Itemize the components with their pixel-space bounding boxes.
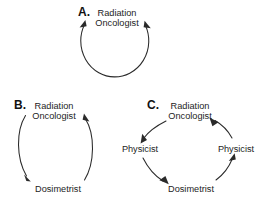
panel-c-node-radiation-oncologist-line1: Radiation [171, 101, 210, 111]
panel-c: C. Radiation Oncologist Physicist Dosime… [122, 98, 255, 194]
panel-c-arc-ro-to-physicist-left [144, 121, 167, 139]
panel-c-letter: C. [147, 98, 159, 112]
panel-c-arc-physicist-right-to-ro [215, 121, 232, 139]
panel-c-arrowhead-to-physicist-right [229, 153, 236, 161]
figure-canvas: A. Radiation Oncologist B. Radiation Onc… [0, 0, 262, 208]
panel-b: B. Radiation Oncologist Dosimetrist [14, 98, 93, 194]
panel-a-node-radiation-oncologist-line1: Radiation [98, 8, 137, 18]
panel-b-arrowhead-to-dosimetrist [24, 174, 31, 181]
panel-b-node-radiation-oncologist-line2: Oncologist [32, 111, 76, 121]
panel-b-arc-ro-to-dosimetrist [18, 116, 26, 177]
panel-c-node-physicist-right: Physicist [218, 144, 255, 154]
panel-a: A. Radiation Oncologist [78, 5, 151, 77]
panel-c-arrowhead-to-dosimetrist [159, 176, 168, 184]
panel-c-node-physicist-left: Physicist [122, 144, 159, 154]
panel-c-node-radiation-oncologist-line2: Oncologist [168, 111, 212, 121]
panel-b-arrowhead-to-ro [83, 114, 90, 122]
panel-a-cycle-arc [81, 25, 149, 77]
panel-c-arc-physicist-left-to-dosimetrist [143, 158, 163, 181]
panel-b-arc-dosimetrist-to-ro [85, 119, 93, 180]
panel-c-arc-dosimetrist-to-physicist-right [216, 159, 233, 181]
panel-a-arrowhead-left [80, 20, 87, 28]
panel-a-arrowhead-right [144, 21, 151, 28]
panel-a-node-radiation-oncologist-line2: Oncologist [95, 18, 139, 28]
panel-a-letter: A. [78, 5, 90, 19]
panel-b-node-radiation-oncologist-line1: Radiation [35, 101, 74, 111]
panel-b-letter: B. [14, 98, 26, 112]
panel-b-node-dosimetrist: Dosimetrist [35, 184, 81, 194]
panel-c-node-dosimetrist: Dosimetrist [168, 184, 214, 194]
